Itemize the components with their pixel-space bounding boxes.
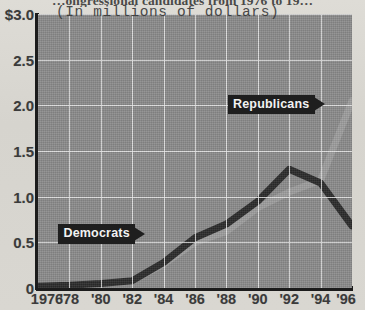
y-tick-label: 0.5 — [13, 234, 34, 251]
x-tick-label: '86 — [185, 291, 205, 307]
x-tick-label: '92 — [279, 291, 299, 307]
y-tick-label: 1.5 — [13, 143, 34, 160]
y-tick-label: 1.0 — [13, 188, 34, 205]
x-tick-label: '84 — [154, 291, 174, 307]
callout-republicans: Republicans — [228, 95, 325, 115]
x-tick-label: '88 — [217, 291, 237, 307]
y-tick-label: $3.0 — [5, 6, 34, 23]
gridline-vertical — [226, 14, 227, 288]
y-tick-label: 2.5 — [13, 51, 34, 68]
callout-republicans-label: Republicans — [228, 95, 315, 115]
gridline-vertical — [195, 14, 196, 288]
gridline-vertical — [101, 14, 102, 288]
x-tick-label: '78 — [60, 291, 80, 307]
x-axis-tick-labels: 1976'78'80'82'84'86'88'90'92'94'96 — [0, 291, 365, 310]
x-tick-label: '82 — [122, 291, 142, 307]
plot-area — [38, 14, 352, 288]
chart-figure: …ongressional candidates from 1976 to 19… — [0, 0, 365, 310]
callout-democrats-label: Democrats — [58, 224, 134, 244]
callout-arrow-icon — [314, 97, 325, 111]
x-tick-label: '80 — [91, 291, 111, 307]
gridline-vertical — [164, 14, 165, 288]
gridline-vertical — [321, 14, 322, 288]
gridline-vertical — [289, 14, 290, 288]
y-tick-label: 2.0 — [13, 97, 34, 114]
x-tick-label: '90 — [248, 291, 268, 307]
callout-democrats: Democrats — [58, 224, 144, 244]
callout-arrow-icon — [134, 227, 145, 241]
gridline-vertical — [69, 14, 70, 288]
x-tick-label: '94 — [311, 291, 331, 307]
gridline-vertical — [132, 14, 133, 288]
x-tick-label: '96 — [336, 291, 356, 307]
gridline-vertical — [258, 14, 259, 288]
y-axis-tick-labels: 00.51.01.52.02.5$3.0 — [0, 0, 36, 293]
chart-subtitle: (In millions of dollars) — [56, 4, 279, 20]
x-tick-label: 1976 — [31, 291, 63, 307]
